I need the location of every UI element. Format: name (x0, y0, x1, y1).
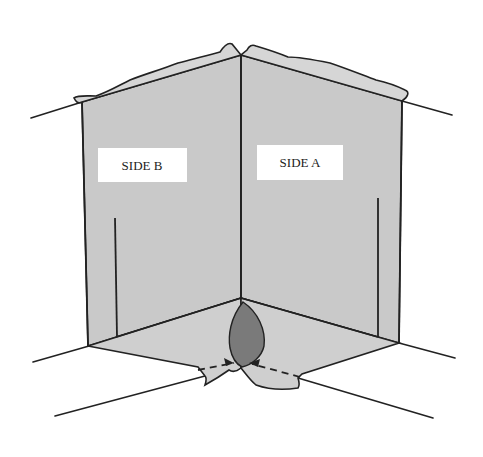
corner-diagram: SIDE B SIDE A (0, 0, 483, 457)
label-side-b: SIDE B (98, 148, 187, 182)
svg-text:SIDE B: SIDE B (122, 158, 163, 173)
label-side-a: SIDE A (257, 145, 343, 180)
svg-text:SIDE A: SIDE A (280, 155, 321, 170)
wall-side-b (82, 55, 241, 346)
